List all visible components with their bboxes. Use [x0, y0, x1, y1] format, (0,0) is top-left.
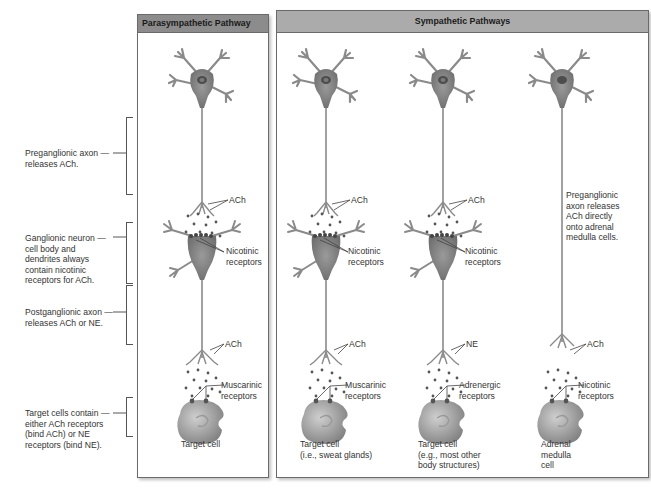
label-line: receptors [465, 257, 501, 268]
label-line: receptors [226, 257, 262, 268]
label-line: medulla cells. [566, 232, 620, 243]
c0-ganglion-receptor: Nicotinicreceptors [226, 246, 262, 267]
c2-upper-nt: ACh [468, 195, 485, 206]
label-line: Nicotinic [226, 246, 262, 257]
c2-ganglion-receptor: Nicotinicreceptors [465, 246, 501, 267]
c2-lower-nt: NE [466, 339, 478, 350]
c0-target-label: Target cell [181, 439, 220, 450]
label-line: Nicotinic [348, 246, 384, 257]
label-line: Target cell [300, 439, 372, 450]
label-line: Adrenal [541, 439, 571, 450]
c3-target-label: Adrenalmedullacell [541, 439, 571, 471]
label-line: cell [541, 460, 571, 471]
label-line: (i.e., sweat glands) [300, 450, 372, 461]
label-line: Preganglionic [566, 190, 620, 201]
c2-target-receptor: Adrenergicreceptors [459, 380, 501, 401]
label-line: Target cell [418, 439, 481, 450]
c2-target-label: Target cell(e.g., most otherbody structu… [418, 439, 481, 471]
c1-lower-nt: ACh [349, 339, 366, 350]
label-line: axon releases [566, 201, 620, 212]
label-line: Muscarinic [221, 380, 262, 391]
c3-lower-nt: ACh [587, 339, 604, 350]
c3-note: Preganglionicaxon releasesACh directlyon… [566, 190, 620, 243]
label-line: receptors [221, 391, 262, 402]
label-line: onto adrenal [566, 222, 620, 233]
neuron-diagram [0, 0, 651, 501]
c0-lower-nt: ACh [225, 339, 242, 350]
label-line: Target cell [181, 439, 220, 450]
label-line: ACh directly [566, 211, 620, 222]
c0-upper-nt: ACh [229, 195, 246, 206]
label-line: receptors [348, 257, 384, 268]
c1-upper-nt: ACh [351, 195, 368, 206]
c1-target-receptor: Muscarinicreceptors [345, 380, 386, 401]
c1-target-label: Target cell(i.e., sweat glands) [300, 439, 372, 460]
label-line: (e.g., most other [418, 450, 481, 461]
label-line: Muscarinic [345, 380, 386, 391]
label-line: receptors [578, 391, 614, 402]
label-line: receptors [345, 391, 386, 402]
label-line: medulla [541, 450, 571, 461]
label-line: Nicotinic [578, 380, 614, 391]
label-line: receptors [459, 391, 501, 402]
label-line: body structures) [418, 460, 481, 471]
c0-target-receptor: Muscarinicreceptors [221, 380, 262, 401]
label-line: Adrenergic [459, 380, 501, 391]
label-line: Nicotinic [465, 246, 501, 257]
c3-target-receptor: Nicotinicreceptors [578, 380, 614, 401]
c1-ganglion-receptor: Nicotinicreceptors [348, 246, 384, 267]
